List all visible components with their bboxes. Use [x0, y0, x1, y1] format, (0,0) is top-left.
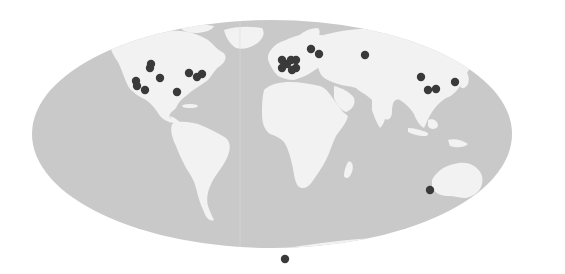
location-marker-asia[interactable] — [432, 85, 440, 93]
location-marker-europe[interactable] — [288, 66, 296, 74]
location-marker-antarctica[interactable] — [281, 255, 289, 263]
world-map — [0, 0, 565, 274]
location-marker-north-america[interactable] — [146, 64, 154, 72]
location-marker-north-america[interactable] — [173, 88, 181, 96]
location-marker-north-america[interactable] — [198, 70, 206, 78]
location-marker-europe[interactable] — [307, 45, 315, 53]
location-marker-asia[interactable] — [451, 78, 459, 86]
location-marker-north-america[interactable] — [185, 69, 193, 77]
location-marker-oceania[interactable] — [426, 186, 434, 194]
land-cuba — [182, 104, 198, 108]
location-marker-north-america[interactable] — [156, 74, 164, 82]
land-new-zealand — [488, 207, 493, 214]
location-marker-asia[interactable] — [417, 73, 425, 81]
location-marker-europe[interactable] — [315, 50, 323, 58]
location-marker-europe[interactable] — [292, 56, 300, 64]
map-canvas — [0, 0, 565, 274]
location-marker-asia[interactable] — [424, 86, 432, 94]
location-marker-north-america[interactable] — [141, 86, 149, 94]
location-marker-asia[interactable] — [361, 51, 369, 59]
location-marker-north-america[interactable] — [133, 82, 141, 90]
